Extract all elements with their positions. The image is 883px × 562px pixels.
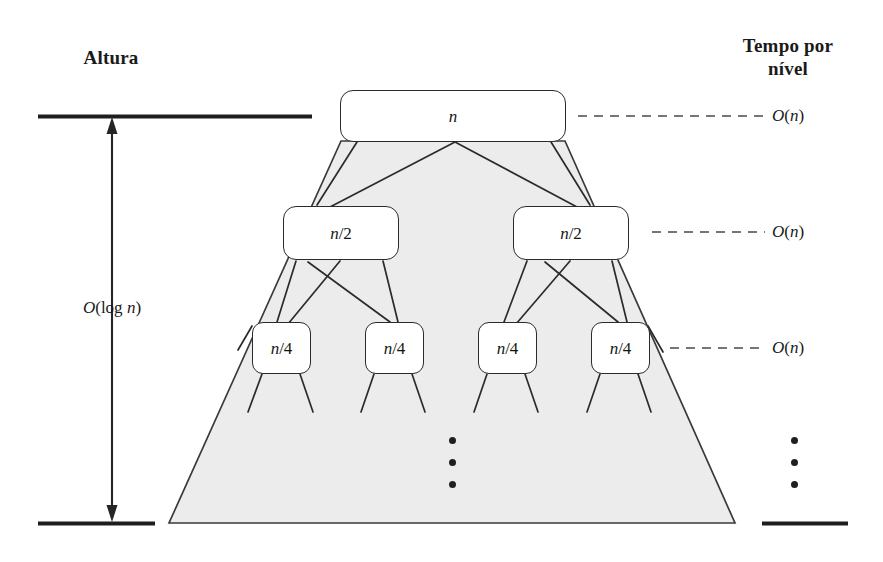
time-vertical-ellipsis bbox=[787, 437, 801, 488]
tree-node-level2-b: n/4 bbox=[365, 322, 424, 374]
time-label-level-0: O(n) bbox=[772, 106, 842, 126]
height-label-body: log bbox=[101, 298, 127, 317]
tree-node-level2-d-label: n/4 bbox=[610, 340, 632, 357]
time-ellipsis-dot-2 bbox=[791, 459, 798, 466]
time-ellipsis-dot-3 bbox=[791, 481, 798, 488]
tree-node-level2-b-var: n bbox=[384, 339, 393, 358]
time-label-level-2: O(n) bbox=[772, 338, 842, 358]
time-label-level-0-o: O bbox=[772, 106, 784, 125]
tree-node-root-label: n bbox=[449, 108, 458, 125]
tree-node-level2-c-var: n bbox=[497, 339, 506, 358]
height-label-close: ) bbox=[135, 298, 141, 317]
tree-node-level1-right-suffix: /2 bbox=[569, 224, 582, 243]
tree-node-level2-a-label: n/4 bbox=[271, 340, 293, 357]
tree-node-level2-c-label: n/4 bbox=[497, 340, 519, 357]
time-column-header-line1: Tempo por bbox=[712, 34, 864, 57]
tree-node-level2-d-var: n bbox=[610, 339, 619, 358]
time-label-level-1-o: O bbox=[772, 222, 784, 241]
tree-node-level2-c: n/4 bbox=[478, 322, 537, 374]
height-arrow-head-up bbox=[107, 117, 118, 134]
height-column-header: Altura bbox=[36, 46, 186, 69]
time-column-header: Tempo por nível bbox=[712, 34, 864, 80]
recursion-tree-figure: Altura Tempo por nível O(log n) O(n) O(n… bbox=[0, 0, 883, 562]
tree-node-level1-right-label: n/2 bbox=[560, 225, 582, 242]
tree-node-level2-d: n/4 bbox=[591, 322, 650, 374]
tree-node-level2-a: n/4 bbox=[252, 322, 311, 374]
tree-node-root-var: n bbox=[449, 107, 458, 126]
tree-node-level2-d-suffix: /4 bbox=[618, 339, 631, 358]
tree-node-level1-right-var: n bbox=[560, 224, 569, 243]
time-label-level-2-close: ) bbox=[798, 338, 804, 357]
tree-node-level2-c-suffix: /4 bbox=[505, 339, 518, 358]
time-label-level-1: O(n) bbox=[772, 222, 842, 242]
time-label-level-0-close: ) bbox=[798, 106, 804, 125]
tree-node-level2-b-suffix: /4 bbox=[392, 339, 405, 358]
height-label-o: O bbox=[83, 298, 95, 317]
tree-ellipsis-dot-2 bbox=[449, 459, 456, 466]
time-label-level-1-close: ) bbox=[798, 222, 804, 241]
tree-node-level1-left-var: n bbox=[330, 224, 339, 243]
tree-node-root: n bbox=[340, 90, 566, 142]
time-column-header-line2: nível bbox=[712, 57, 864, 80]
diagram-vector-layer bbox=[0, 0, 883, 562]
tree-vertical-ellipsis bbox=[445, 437, 459, 488]
tree-ellipsis-dot-1 bbox=[449, 437, 456, 444]
tree-node-level2-a-var: n bbox=[271, 339, 280, 358]
height-label: O(log n) bbox=[48, 298, 176, 318]
tree-node-level2-a-suffix: /4 bbox=[279, 339, 292, 358]
tree-node-level1-left-label: n/2 bbox=[330, 225, 352, 242]
tree-node-level1-left-suffix: /2 bbox=[339, 224, 352, 243]
time-label-level-2-o: O bbox=[772, 338, 784, 357]
tree-node-level1-left: n/2 bbox=[283, 206, 399, 260]
tree-node-level1-right: n/2 bbox=[513, 206, 629, 260]
height-arrow-head-down bbox=[107, 505, 118, 522]
tree-ellipsis-dot-3 bbox=[449, 481, 456, 488]
tree-node-level2-b-label: n/4 bbox=[384, 340, 406, 357]
time-ellipsis-dot-1 bbox=[791, 437, 798, 444]
